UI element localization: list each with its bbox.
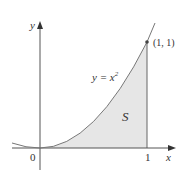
origin-label: 0 (30, 152, 36, 163)
curve-label-exponent: 2 (115, 70, 119, 78)
y-axis-label: y (30, 20, 35, 31)
x-axis-label: x (166, 152, 171, 163)
region-label: S (122, 110, 129, 123)
tick-label-one: 1 (145, 152, 151, 163)
curve-label: y = x2 (92, 72, 118, 83)
figure: y x 0 1 (1, 1) y = x2 S (0, 0, 186, 180)
curve-label-base: y = x (92, 71, 115, 83)
point-label: (1, 1) (153, 38, 175, 48)
plot-svg (0, 0, 186, 180)
point-1-1 (145, 40, 149, 44)
y-axis-arrow-icon (37, 21, 43, 29)
shaded-region-s (40, 42, 147, 148)
